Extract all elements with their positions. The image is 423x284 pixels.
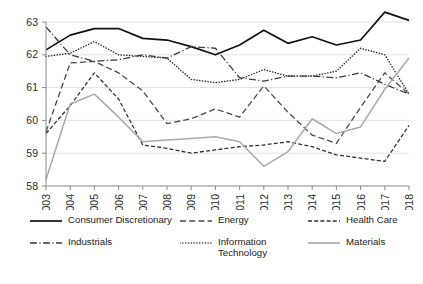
x-tick-label: 2011 xyxy=(234,194,246,210)
x-tick-label: 2008 xyxy=(161,194,173,210)
legend-item[interactable]: Industrials xyxy=(30,236,180,258)
x-axis-ticks xyxy=(46,186,409,190)
x-tick-label: 2012 xyxy=(258,194,270,210)
x-tick-label: 2010 xyxy=(209,194,221,210)
legend-item[interactable]: Information Technology xyxy=(180,236,308,258)
legend-label: Health Care xyxy=(346,214,398,225)
x-tick-label: 2004 xyxy=(64,194,76,210)
legend-item[interactable]: Materials xyxy=(308,236,423,258)
series-line xyxy=(46,12,409,55)
x-tick-label: 2007 xyxy=(137,194,149,210)
legend-swatch-icon xyxy=(180,237,212,249)
legend-item[interactable]: Health Care xyxy=(308,214,423,227)
legend-swatch-icon xyxy=(308,215,340,227)
y-axis-labels: 585960616263 xyxy=(26,16,38,192)
legend-label: Consumer Discretionary xyxy=(68,214,172,225)
y-tick-label: 61 xyxy=(26,81,38,93)
legend-item[interactable]: Consumer Discretionary xyxy=(30,214,180,227)
x-tick-label: 2013 xyxy=(282,194,294,210)
legend-swatch-icon xyxy=(308,237,340,249)
y-tick-label: 63 xyxy=(26,16,38,28)
x-tick-label: 2016 xyxy=(355,194,367,210)
x-tick-label: 2003 xyxy=(40,194,52,210)
legend-swatch-icon xyxy=(30,237,62,249)
series-lines xyxy=(46,12,409,179)
legend-item[interactable]: Energy xyxy=(180,214,308,227)
y-tick-label: 59 xyxy=(26,147,38,159)
x-tick-label: 2017 xyxy=(379,194,391,210)
legend-label: Industrials xyxy=(68,236,112,247)
x-tick-label: 2005 xyxy=(88,194,100,210)
chart-figure: 585960616263 200320042005200620072008200… xyxy=(0,0,423,284)
chart-legend: Consumer DiscretionaryEnergyHealth CareI… xyxy=(0,214,423,284)
x-tick-label: 2018 xyxy=(403,194,415,210)
chart-canvas: 585960616263 200320042005200620072008200… xyxy=(0,0,423,210)
x-tick-label: 2015 xyxy=(330,194,342,210)
y-axis-ticks xyxy=(42,22,46,186)
y-tick-label: 60 xyxy=(26,114,38,126)
legend-label: Information Technology xyxy=(218,236,308,258)
y-tick-label: 62 xyxy=(26,48,38,60)
series-line xyxy=(46,27,409,94)
legend-swatch-icon xyxy=(180,215,212,227)
x-tick-label: 2009 xyxy=(185,194,197,210)
legend-swatch-icon xyxy=(30,215,62,227)
y-tick-label: 58 xyxy=(26,180,38,192)
series-line xyxy=(46,58,409,179)
line-chart: 585960616263 200320042005200620072008200… xyxy=(0,0,423,210)
legend-label: Energy xyxy=(218,214,249,225)
legend-label: Materials xyxy=(346,236,385,247)
x-tick-label: 2014 xyxy=(306,194,318,210)
x-axis-labels: 2003200420052006200720082009201020112012… xyxy=(40,194,415,210)
x-tick-label: 2006 xyxy=(113,194,125,210)
gridlines xyxy=(46,22,409,186)
